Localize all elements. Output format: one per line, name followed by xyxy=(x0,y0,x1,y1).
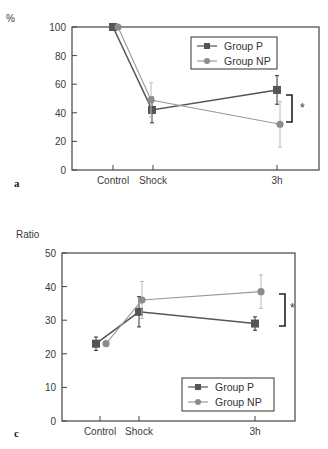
x-tick-label: Control xyxy=(97,175,129,186)
y-axis: 020406080100 xyxy=(49,22,77,176)
x-tick-label: Control xyxy=(84,426,116,437)
legend-label: Group P xyxy=(224,40,263,52)
y-tick-label: 10 xyxy=(45,382,57,393)
y-axis-label: % xyxy=(6,13,15,24)
panel-label: a xyxy=(14,177,20,189)
chart-panel-a: 020406080100ControlShock3h%aGroup PGroup… xyxy=(6,13,319,189)
circle-marker-icon xyxy=(195,399,201,405)
x-tick-label: Shock xyxy=(139,175,168,186)
circle-marker-icon xyxy=(204,58,210,64)
y-tick-label: 50 xyxy=(45,248,57,259)
legend-label: Group NP xyxy=(215,396,262,408)
circle-marker xyxy=(138,296,145,303)
y-tick-label: 0 xyxy=(50,416,56,427)
x-tick-label: 3h xyxy=(271,175,282,186)
panel-label: c xyxy=(14,427,19,439)
y-axis: 01020304050 xyxy=(45,248,67,427)
series-group-p xyxy=(92,297,259,351)
y-tick-label: 30 xyxy=(45,315,57,326)
circle-marker xyxy=(114,23,121,30)
y-tick-label: 40 xyxy=(45,282,57,293)
significance-bracket: * xyxy=(279,294,295,326)
y-tick-label: 20 xyxy=(55,136,67,147)
square-marker-icon xyxy=(204,43,210,49)
circle-marker xyxy=(276,121,283,128)
y-tick-label: 100 xyxy=(49,22,66,33)
legend: Group PGroup NP xyxy=(191,37,277,69)
series-group-np xyxy=(102,275,264,347)
significance-bracket: * xyxy=(286,95,305,122)
figure-canvas: 020406080100ControlShock3h%aGroup PGroup… xyxy=(0,0,328,449)
y-axis-label: Ratio xyxy=(16,229,40,240)
significance-star: * xyxy=(300,101,305,115)
square-marker xyxy=(251,320,259,328)
square-marker xyxy=(92,340,100,348)
square-marker-icon xyxy=(195,384,201,390)
circle-marker xyxy=(147,96,154,103)
x-tick-label: Shock xyxy=(125,426,154,437)
x-axis: ControlShock3h xyxy=(97,165,283,186)
legend: Group PGroup NP xyxy=(182,378,274,411)
square-marker xyxy=(148,106,156,114)
chart-panel-c: 01020304050ControlShock3hRatiocGroup PGr… xyxy=(14,229,295,439)
y-tick-label: 0 xyxy=(60,165,66,176)
y-tick-label: 80 xyxy=(55,51,67,62)
circle-marker xyxy=(102,340,109,347)
significance-star: * xyxy=(290,301,295,315)
legend-label: Group NP xyxy=(224,55,271,67)
circle-marker xyxy=(257,288,264,295)
square-marker xyxy=(273,86,281,94)
y-tick-label: 20 xyxy=(45,349,57,360)
y-tick-label: 40 xyxy=(55,108,67,119)
x-axis: ControlShock3h xyxy=(84,416,261,437)
legend-label: Group P xyxy=(215,381,254,393)
x-tick-label: 3h xyxy=(249,426,260,437)
y-tick-label: 60 xyxy=(55,79,67,90)
